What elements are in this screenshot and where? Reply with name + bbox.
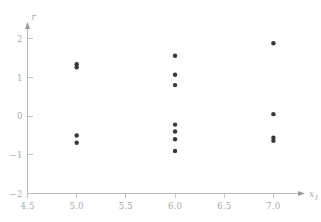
y-tick-label: 2 [17, 34, 23, 44]
scatter-point [173, 137, 177, 141]
y-tick-label: −1 [10, 150, 23, 160]
x-axis-title-subscript: 1 [315, 194, 319, 202]
scatter-point [173, 122, 177, 126]
scatter-point [173, 149, 177, 153]
scatter-point [173, 72, 177, 76]
y-tick-label: −2 [10, 189, 23, 199]
scatter-plot-canvas: 4.55.05.56.06.57.0 210−1−2 rx1 [0, 0, 321, 222]
y-tick-label: 0 [17, 111, 23, 121]
y-axis-ticks: 210−1−2 [10, 34, 33, 199]
x-tick-label: 4.5 [20, 201, 34, 211]
x-tick-label: 5.5 [119, 201, 133, 211]
scatter-point [74, 141, 78, 145]
y-axis-title: r [32, 12, 37, 22]
scatter-point [173, 83, 177, 87]
x-axis-ticks: 4.55.05.56.06.57.0 [20, 194, 280, 211]
scatter-point [74, 133, 78, 137]
y-axis-arrow-icon [25, 22, 30, 29]
x-tick-label: 6.5 [217, 201, 231, 211]
x-axis-arrow-icon [298, 191, 305, 196]
scatter-point [271, 112, 275, 116]
scatter-point [74, 65, 78, 69]
data-points-group [74, 41, 275, 153]
x-tick-label: 6.0 [168, 201, 182, 211]
axis-titles-group: rx1 [32, 12, 319, 202]
residual-scatter-figure: 4.55.05.56.06.57.0 210−1−2 rx1 [0, 0, 321, 222]
x-tick-label: 7.0 [266, 201, 280, 211]
scatter-point [271, 41, 275, 45]
axes-group [25, 22, 305, 196]
scatter-point [271, 139, 275, 143]
scatter-point [173, 129, 177, 133]
scatter-point [173, 53, 177, 57]
x-axis-title: x [309, 189, 314, 199]
x-tick-label: 5.0 [70, 201, 84, 211]
y-tick-label: 1 [17, 73, 23, 83]
